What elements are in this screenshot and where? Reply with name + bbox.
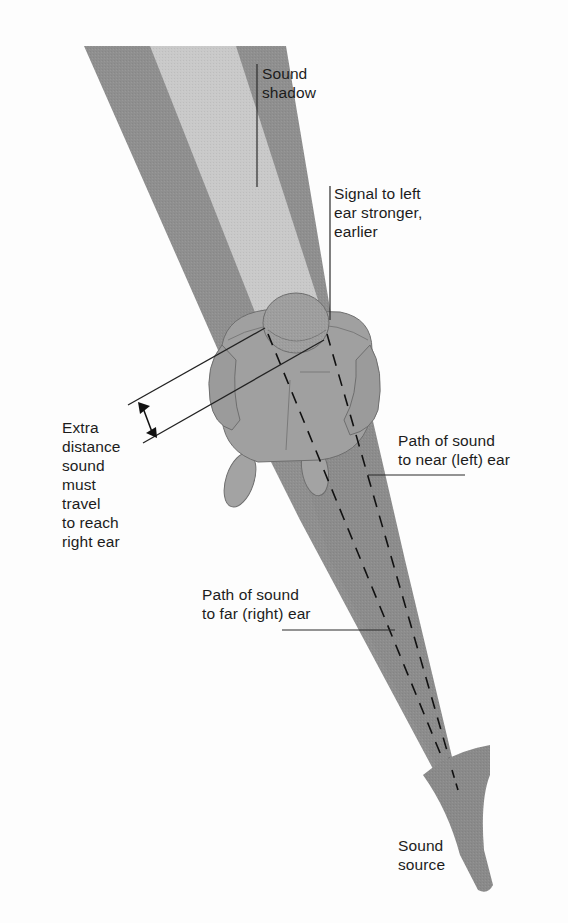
signal-left-ear-label: Signal to left ear stronger, earlier bbox=[334, 184, 422, 241]
double-arrow-icon bbox=[138, 402, 157, 438]
extra-distance-label: Extra distance sound must travel to reac… bbox=[62, 418, 121, 551]
sound-localization-diagram: Sound shadow Signal to left ear stronger… bbox=[0, 0, 568, 923]
path-far-ear-label: Path of sound to far (right) ear bbox=[202, 585, 311, 623]
sound-shadow-label: Sound shadow bbox=[262, 64, 316, 102]
sound-source-label: Sound source bbox=[398, 836, 445, 874]
path-near-ear-label: Path of sound to near (left) ear bbox=[398, 431, 510, 469]
